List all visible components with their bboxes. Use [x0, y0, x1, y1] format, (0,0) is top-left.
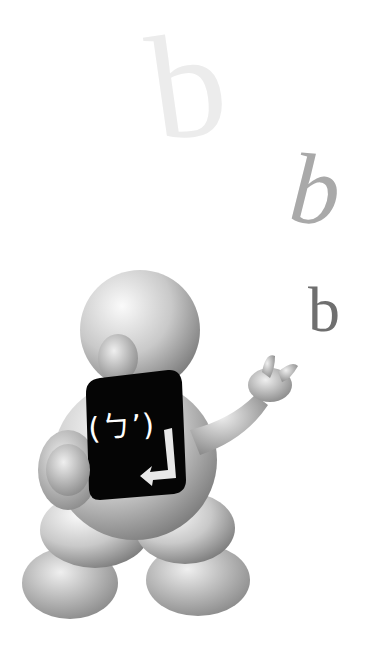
illustration: b b b — [0, 0, 371, 645]
left-hand — [46, 444, 90, 496]
head — [80, 270, 200, 390]
keycap-label: (ㄅ’) — [87, 400, 157, 449]
figure — [0, 0, 371, 645]
